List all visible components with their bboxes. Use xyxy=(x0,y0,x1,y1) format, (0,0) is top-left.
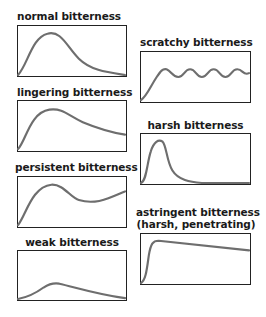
panel-title: weak bitterness xyxy=(17,237,127,248)
persistent-curve xyxy=(18,177,126,227)
normal-curve xyxy=(18,26,126,76)
curve-box xyxy=(140,133,251,185)
panel-title: lingering bitterness xyxy=(17,87,127,98)
harsh-curve xyxy=(141,134,250,184)
panel-title: harsh bitterness xyxy=(140,120,251,131)
lingering-curve xyxy=(18,101,126,151)
curve-box xyxy=(17,25,127,77)
curve-box xyxy=(140,233,251,285)
curve-box xyxy=(17,250,127,301)
scratchy-curve xyxy=(141,52,250,102)
panel-title-line1: astringent bitterness xyxy=(136,207,256,218)
astringent-curve xyxy=(141,234,250,284)
panel-title: persistent bitterness xyxy=(15,162,130,173)
panel-title: normal bitterness xyxy=(17,11,119,22)
curve-box xyxy=(140,51,251,103)
panel-title-line2: (harsh, penetrating) xyxy=(136,219,256,230)
weak-curve xyxy=(18,251,126,300)
curve-box xyxy=(17,176,127,228)
curve-box xyxy=(17,100,127,152)
panel-title: scratchy bitterness xyxy=(140,37,251,48)
